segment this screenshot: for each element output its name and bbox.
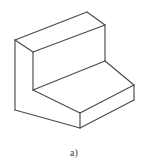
figure-caption: a) xyxy=(70,148,78,158)
figure-caption-wrapper: a) xyxy=(0,140,148,165)
figure-container: a) xyxy=(0,0,148,165)
isometric-block-drawing xyxy=(0,0,148,140)
